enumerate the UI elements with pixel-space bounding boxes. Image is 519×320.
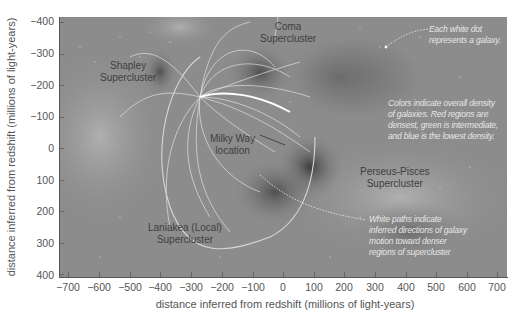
y-tick-label: 400 <box>20 269 54 281</box>
milky-way-label: Milky Waylocation <box>210 133 255 157</box>
y-tick-mark <box>60 274 64 275</box>
density-colors-note: Colors indicate overall densityof galaxi… <box>388 98 498 142</box>
x-tick-label: 700 <box>477 281 517 293</box>
x-tick-mark <box>436 272 437 277</box>
flow-paths-note: White paths indicateinferred directions … <box>369 214 467 258</box>
y-tick-mark <box>60 180 64 181</box>
y-tick-label: 200 <box>20 205 54 217</box>
x-tick-mark <box>314 272 315 277</box>
y-tick-label: −300 <box>20 47 54 59</box>
x-tick-mark <box>130 272 131 277</box>
x-tick-mark <box>160 272 161 277</box>
y-tick-label: 300 <box>20 237 54 249</box>
y-tick-mark <box>60 148 64 149</box>
y-tick-mark <box>60 117 64 118</box>
y-tick-mark <box>60 85 64 86</box>
x-tick-mark <box>344 272 345 277</box>
y-tick-mark <box>60 243 64 244</box>
x-tick-mark <box>375 272 376 277</box>
annotation-arrow <box>387 29 428 46</box>
supercluster-map: ShapleySupercluster ComaSupercluster Mil… <box>60 17 507 277</box>
y-tick-mark <box>60 22 64 23</box>
x-tick-mark <box>191 272 192 277</box>
perseus-pisces-label: Perseus-PiscesSupercluster <box>360 166 429 190</box>
x-tick-mark <box>222 272 223 277</box>
y-tick-label: 100 <box>20 174 54 186</box>
galaxy-dot-note: Each white dotrepresents a galaxy. <box>429 24 501 46</box>
shapley-label: ShapleySupercluster <box>100 60 156 84</box>
x-axis-label: distance inferred from redshift (million… <box>150 298 420 310</box>
x-tick-mark <box>406 272 407 277</box>
galaxy-cluster <box>140 17 220 47</box>
x-tick-mark <box>68 272 69 277</box>
x-tick-mark <box>99 272 100 277</box>
y-tick-label: −100 <box>20 110 54 122</box>
laniakea-label: Laniakea (Local)Supercluster <box>148 222 222 246</box>
x-tick-mark <box>467 272 468 277</box>
y-tick-label: −200 <box>20 79 54 91</box>
y-tick-label: 0 <box>20 142 54 154</box>
y-axis-label: distance inferred from redshift (million… <box>5 17 19 277</box>
x-axis-line <box>59 277 508 278</box>
x-tick-mark <box>283 272 284 277</box>
milky-way-pointer <box>260 135 285 145</box>
y-tick-label: −400 <box>20 15 54 27</box>
galaxy-dot-example <box>385 46 388 49</box>
x-tick-mark <box>497 272 498 277</box>
y-tick-mark <box>60 211 64 212</box>
coma-label: ComaSupercluster <box>260 21 316 45</box>
x-tick-mark <box>253 272 254 277</box>
y-tick-mark <box>60 54 64 55</box>
